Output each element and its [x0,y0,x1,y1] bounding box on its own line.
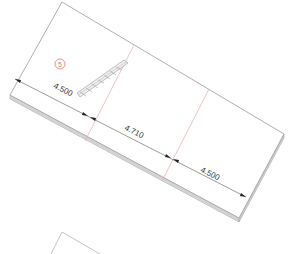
item-balloon[interactable]: 5 [55,59,65,69]
balloon-label: 5 [58,61,62,68]
flat-pattern-outline[interactable] [10,2,284,218]
partial-view-outline [51,232,100,254]
drawing-canvas: 5 4.500 4.710 4.500 [0,0,289,254]
